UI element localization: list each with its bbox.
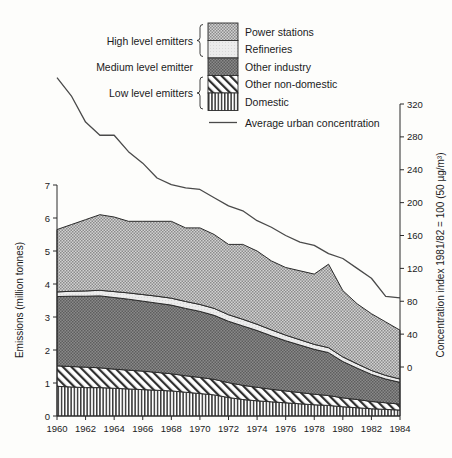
y2-tick-label: 40	[407, 329, 418, 340]
legend-swatch-domestic	[208, 93, 238, 111]
x-tick-label: 1982	[361, 423, 382, 434]
y-tick-label: 7	[45, 180, 50, 191]
y2-tick-label: 320	[407, 99, 423, 110]
legend-swatch-other-non-domestic	[208, 76, 238, 94]
y-axis-title: Emissions (million tonnes)	[14, 242, 25, 358]
y2-tick-label: 200	[407, 197, 423, 208]
emissions-chart: 0123456704080120160200240280320196019621…	[0, 0, 452, 458]
legend-label-domestic: Domestic	[245, 96, 289, 108]
y-tick-label: 0	[45, 411, 50, 422]
x-tick-label: 1974	[247, 423, 268, 434]
chart-svg: 0123456704080120160200240280320196019621…	[0, 0, 452, 458]
legend-swatch-power-stations	[208, 23, 238, 41]
bracket-label-low-level-emitters: Low level emitters	[109, 87, 193, 99]
legend-label-other-industry: Other industry	[245, 61, 312, 73]
legend-bracket-0	[197, 25, 203, 57]
y-tick-label: 3	[45, 312, 50, 323]
y2-tick-label: 280	[407, 131, 423, 142]
bracket-label-high-level-emitters: High level emitters	[107, 35, 193, 47]
y2-tick-label: 160	[407, 230, 423, 241]
y2-tick-label: 0	[407, 362, 412, 373]
x-tick-label: 1966	[132, 423, 153, 434]
x-tick-label: 1964	[104, 423, 125, 434]
legend-label-refineries: Refineries	[245, 43, 292, 55]
x-tick-label: 1972	[218, 423, 239, 434]
y-tick-label: 5	[45, 246, 50, 257]
stacked-areas	[57, 215, 400, 416]
y2-tick-label: 240	[407, 164, 423, 175]
x-tick-label: 1980	[332, 423, 353, 434]
x-tick-label: 1968	[161, 423, 182, 434]
y2-tick-label: 120	[407, 263, 423, 274]
y-tick-label: 6	[45, 213, 50, 224]
x-tick-label: 1976	[275, 423, 296, 434]
y2-axis-title: Concentration index 1981/82 = 100 (50 µg…	[435, 152, 446, 357]
legend-swatch-refineries	[208, 41, 238, 59]
legend: Power stationsRefineriesOther industryOt…	[96, 23, 380, 129]
legend-label-other-non-domestic: Other non-domestic	[245, 78, 337, 90]
x-tick-label: 1984	[389, 423, 410, 434]
x-tick-label: 1978	[304, 423, 325, 434]
x-tick-label: 1962	[75, 423, 96, 434]
y2-tick-label: 80	[407, 296, 418, 307]
y-tick-label: 4	[45, 279, 50, 290]
y-tick-label: 2	[45, 345, 50, 356]
y-tick-label: 1	[45, 378, 50, 389]
x-tick-label: 1970	[189, 423, 210, 434]
legend-label-average-urban-concentration: Average urban concentration	[245, 117, 380, 129]
legend-bracket-2	[197, 77, 203, 109]
legend-swatch-other-industry	[208, 58, 238, 76]
x-tick-label: 1960	[46, 423, 67, 434]
legend-label-power-stations: Power stations	[245, 26, 314, 38]
bracket-label-medium-level-emitter: Medium level emitter	[96, 61, 193, 73]
